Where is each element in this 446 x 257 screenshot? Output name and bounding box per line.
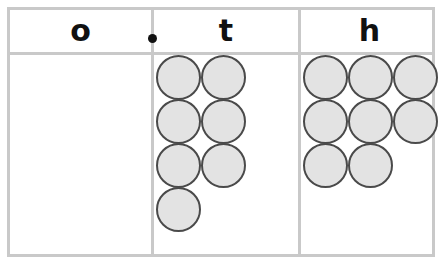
counter-row (156, 143, 298, 188)
counter-row (156, 99, 298, 144)
circle-counter-icon (201, 55, 246, 100)
circle-counter-icon (348, 55, 393, 100)
counter-row (303, 99, 438, 144)
circle-counter-icon (393, 99, 438, 144)
circle-counter-icon (156, 187, 201, 232)
counter-row (303, 143, 438, 188)
circle-counter-icon (201, 143, 246, 188)
column-header-ones: o (10, 10, 151, 55)
counter-row (156, 187, 298, 232)
circle-counter-icon (156, 99, 201, 144)
counter-row (303, 55, 438, 100)
column-body-tenths (154, 55, 298, 232)
circle-counter-icon (156, 55, 201, 100)
circle-counter-icon (303, 99, 348, 144)
circle-counter-icon (303, 55, 348, 100)
decimal-point-icon (148, 34, 157, 43)
counter-row (156, 55, 298, 100)
circle-counter-icon (393, 55, 438, 100)
circle-counter-icon (348, 99, 393, 144)
place-value-table: o t h (7, 7, 435, 257)
column-header-hundredths: h (301, 10, 438, 55)
circle-counter-icon (201, 99, 246, 144)
circle-counter-icon (156, 143, 201, 188)
circle-counter-icon (348, 143, 393, 188)
circle-counter-icon (303, 143, 348, 188)
column-header-tenths: t (154, 10, 298, 55)
column-body-hundredths (301, 55, 438, 188)
